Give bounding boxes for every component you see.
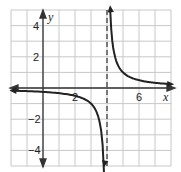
y-axis-label: y	[47, 10, 54, 24]
function-graph: 2642−2−4 x y	[0, 0, 181, 172]
svg-text:−4: −4	[28, 144, 41, 156]
svg-text:2: 2	[33, 51, 39, 63]
svg-text:6: 6	[136, 91, 142, 103]
svg-text:4: 4	[33, 20, 39, 32]
svg-text:−2: −2	[28, 113, 41, 125]
x-axis	[10, 85, 175, 91]
x-axis-label: x	[162, 90, 169, 104]
